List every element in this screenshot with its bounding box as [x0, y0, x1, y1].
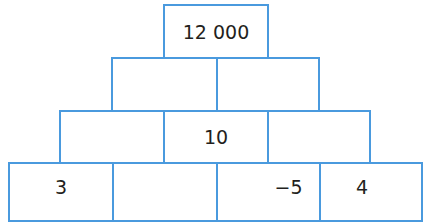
brick-r3-c2: 10: [163, 110, 269, 164]
brick-r4-c3: −5: [216, 162, 321, 222]
brick-r2-c1: [111, 57, 218, 112]
brick-r4-c4: 4: [319, 162, 423, 222]
brick-r1-c1: 12 000: [163, 4, 269, 59]
brick-r2-c2: [216, 57, 320, 112]
brick-r3-c3: [267, 110, 371, 164]
brick-r4-c1: 3: [8, 162, 114, 222]
brick-r3-c1: [59, 110, 165, 164]
brick-r4-c2: [112, 162, 218, 222]
